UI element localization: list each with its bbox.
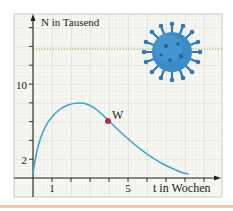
chart: 10 2 1 5 N in Tausend t in Wochen W — [0, 0, 233, 211]
bottom-rule — [0, 205, 233, 208]
x-tick-label-1: 1 — [49, 182, 55, 194]
point-w-label: W — [112, 108, 124, 122]
x-tick-label-5: 5 — [125, 182, 131, 194]
x-axis-title: t in Wochen — [153, 181, 210, 195]
y-tick-label-2: 2 — [22, 154, 28, 166]
y-tick-label-10: 10 — [16, 79, 28, 91]
y-axis-title: N in Tausend — [41, 16, 100, 28]
grid — [14, 14, 222, 197]
virus-icon — [142, 22, 203, 83]
point-w-marker — [105, 118, 110, 123]
